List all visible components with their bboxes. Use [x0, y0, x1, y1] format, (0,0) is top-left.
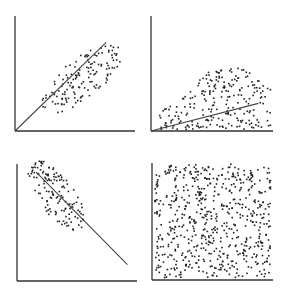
- regression-line: [15, 42, 106, 131]
- data-points: [42, 45, 121, 113]
- scatter-positive-correlation: [15, 16, 135, 131]
- scatter-negative-correlation: [17, 161, 137, 282]
- scatter-plot-grid: [0, 0, 290, 290]
- data-points: [159, 68, 271, 131]
- regression-line: [151, 103, 258, 131]
- data-points: [154, 164, 271, 279]
- regression-line: [36, 172, 127, 264]
- scatter-heteroscedastic-fan: [151, 16, 273, 131]
- scatter-no-correlation: [152, 163, 273, 280]
- data-points: [27, 161, 84, 231]
